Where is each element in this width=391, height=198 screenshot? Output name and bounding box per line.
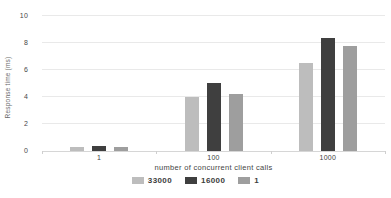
y-tick-label: 0: [0, 147, 28, 154]
x-axis-tick-mark: [271, 151, 272, 154]
legend-swatch-icon: [132, 177, 144, 184]
legend-item-1: 1: [238, 176, 259, 185]
bar-group-100: [184, 83, 244, 151]
bar-33000-at-100: [185, 97, 199, 151]
bar-1-at-1: [114, 147, 128, 151]
bar-1-at-100: [229, 94, 243, 151]
gridline: [42, 15, 385, 16]
bar-16000-at-1000: [321, 38, 335, 151]
bar-16000-at-100: [207, 83, 221, 151]
plot-area: [42, 16, 385, 152]
y-tick-label: 10: [0, 12, 28, 19]
response-time-bar-chart: Response time (ms) number of concurrent …: [0, 0, 391, 198]
bar-group-1: [69, 146, 129, 151]
legend-item-16000: 16000: [185, 176, 225, 185]
legend-label: 33000: [148, 176, 172, 185]
y-tick-label: 8: [0, 39, 28, 46]
x-tick-label: 1: [69, 154, 129, 161]
bar-1-at-1000: [343, 46, 357, 151]
x-axis-tick-mark: [42, 151, 43, 154]
legend-label: 16000: [201, 176, 225, 185]
bar-33000-at-1000: [299, 63, 313, 151]
bar-33000-at-1: [70, 147, 84, 151]
x-axis-title: number of concurrent client calls: [42, 163, 385, 172]
x-tick-label: 100: [184, 154, 244, 161]
y-tick-label: 4: [0, 93, 28, 100]
legend-swatch-icon: [185, 177, 197, 184]
legend-swatch-icon: [238, 177, 250, 184]
legend-label: 1: [254, 176, 259, 185]
y-tick-label: 2: [0, 120, 28, 127]
bar-16000-at-1: [92, 146, 106, 151]
bar-group-1000: [298, 38, 358, 151]
x-axis-tick-mark: [156, 151, 157, 154]
x-tick-label: 1000: [298, 154, 358, 161]
chart-legend: 33000160001: [0, 176, 391, 185]
legend-item-33000: 33000: [132, 176, 172, 185]
x-axis-tick-mark: [385, 151, 386, 154]
y-tick-label: 6: [0, 66, 28, 73]
